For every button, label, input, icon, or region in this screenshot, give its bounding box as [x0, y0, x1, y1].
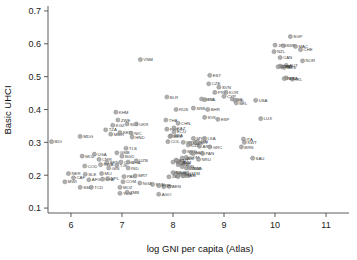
data-point-marker	[208, 73, 212, 77]
data-point[interactable]: CAN	[278, 55, 292, 60]
data-point[interactable]: NOR	[300, 58, 315, 63]
data-point-marker	[181, 140, 185, 144]
data-point[interactable]: GBR	[276, 64, 290, 69]
data-point[interactable]: BEL	[234, 101, 248, 106]
data-point[interactable]: MWI	[63, 179, 77, 184]
data-point[interactable]: BWA	[187, 166, 202, 171]
data-point-marker	[165, 95, 169, 99]
data-point-marker	[129, 131, 133, 135]
data-point-marker	[118, 191, 122, 195]
data-point-marker	[298, 48, 302, 52]
data-point-marker	[66, 171, 70, 175]
data-point[interactable]: SRB	[191, 106, 205, 111]
data-point[interactable]: ESP	[216, 117, 230, 122]
data-point[interactable]: BRN	[239, 145, 253, 150]
data-point[interactable]: RUS	[174, 107, 188, 112]
data-point-marker	[200, 151, 204, 155]
data-point-marker	[138, 181, 142, 185]
data-point[interactable]: VNM	[138, 57, 153, 62]
data-point[interactable]: KHM	[114, 110, 129, 115]
data-point-marker	[125, 122, 129, 126]
data-point-marker	[63, 180, 67, 184]
data-point[interactable]: UKR	[134, 122, 148, 127]
data-point-label: MEX	[173, 134, 182, 139]
data-point-marker	[208, 145, 212, 149]
data-point[interactable]: BGD	[120, 154, 134, 159]
data-point-label: TLS	[129, 146, 137, 151]
data-point-label: BDI	[55, 139, 62, 144]
data-point[interactable]: COD	[83, 164, 98, 169]
data-point[interactable]: SVK	[203, 115, 217, 120]
data-point[interactable]: NZL	[272, 49, 286, 54]
data-point-marker	[134, 122, 138, 126]
data-point[interactable]: NGA	[138, 181, 153, 186]
data-point-marker	[176, 174, 180, 178]
data-point-marker	[254, 98, 258, 102]
data-point[interactable]: IND	[126, 166, 139, 171]
data-point[interactable]: THA	[164, 118, 178, 123]
data-point[interactable]: AFG	[87, 177, 102, 182]
data-point-marker	[114, 110, 118, 114]
data-point-marker	[130, 135, 134, 139]
data-point[interactable]: BHR	[206, 107, 220, 112]
data-point-marker	[133, 174, 137, 178]
data-point-marker	[272, 50, 276, 54]
data-point[interactable]: CHE	[298, 47, 312, 52]
data-point-marker	[118, 130, 122, 134]
data-point[interactable]: USA	[254, 98, 268, 103]
data-point[interactable]: ZMB	[125, 190, 139, 195]
data-point[interactable]: PAN	[200, 151, 214, 156]
data-point-marker	[281, 44, 285, 48]
plot-canvas: BDIMDGMOZUGACMRCODBENRWAGINTJKNERSLEMLIC…	[0, 0, 357, 260]
data-point-marker	[107, 166, 111, 170]
data-point[interactable]: BDI	[49, 139, 61, 144]
data-point-marker	[234, 101, 238, 105]
data-point[interactable]: ETH	[157, 183, 171, 188]
data-point[interactable]: COL	[166, 139, 181, 144]
data-point[interactable]: AGO	[157, 192, 172, 197]
data-point[interactable]: TCD	[89, 185, 103, 190]
data-point-marker	[126, 160, 130, 164]
data-point-marker	[300, 59, 304, 63]
data-point[interactable]: MDG	[78, 134, 94, 139]
data-point-label: SEN	[172, 184, 181, 189]
data-point[interactable]: UGA	[92, 152, 107, 157]
data-point[interactable]: GRC	[208, 145, 223, 150]
data-point[interactable]: SAU	[250, 156, 264, 161]
data-point-label: SLE	[88, 172, 96, 177]
data-point-marker	[118, 185, 122, 189]
data-point-marker	[191, 106, 195, 110]
data-point[interactable]: NPL	[106, 176, 120, 181]
data-point[interactable]: MEX	[168, 134, 183, 139]
data-point[interactable]: LUX	[259, 116, 273, 121]
data-point[interactable]: SVN	[217, 85, 231, 90]
data-point[interactable]: NRU	[196, 157, 210, 162]
data-point[interactable]: NAM	[181, 173, 196, 178]
data-point-label: SAU	[256, 156, 265, 161]
data-point[interactable]: ZWE	[116, 118, 131, 123]
data-point[interactable]: LVA	[203, 97, 216, 102]
data-point-marker	[239, 145, 243, 149]
data-point-marker	[273, 43, 277, 47]
data-point-label: USA	[259, 98, 268, 103]
data-point[interactable]: SGP	[288, 34, 302, 39]
x-tick-label: 11	[321, 220, 330, 230]
data-point[interactable]: BLR	[165, 95, 178, 100]
data-point-marker	[180, 165, 184, 169]
data-point[interactable]: NLD	[282, 76, 296, 81]
data-point[interactable]: LKA	[203, 136, 216, 141]
data-point[interactable]: SLE	[83, 172, 96, 177]
data-point-label: RUS	[179, 107, 188, 112]
data-point[interactable]: MRT	[133, 173, 148, 178]
data-point[interactable]: HND	[130, 135, 144, 140]
data-point-marker	[203, 136, 207, 140]
data-point-label: BLR	[170, 95, 178, 100]
data-point-label: NZL	[277, 49, 286, 54]
data-point[interactable]: EST	[208, 73, 222, 78]
data-point-label: COD	[88, 164, 98, 169]
data-point[interactable]: COM	[121, 179, 137, 184]
x-tick-label: 8	[170, 220, 175, 230]
data-point-marker	[168, 134, 172, 138]
data-point[interactable]: UZB	[134, 158, 148, 163]
data-point-marker	[104, 128, 108, 132]
